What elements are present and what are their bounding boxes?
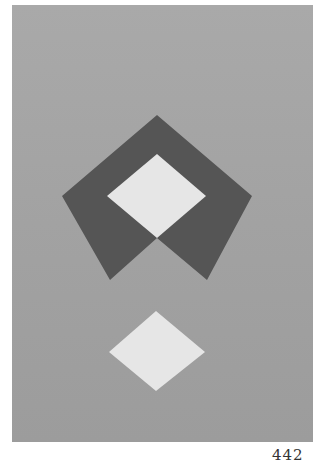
geometric-artwork (0, 0, 320, 466)
page-number: 442 (272, 446, 312, 464)
lower-light-diamond (109, 311, 205, 391)
